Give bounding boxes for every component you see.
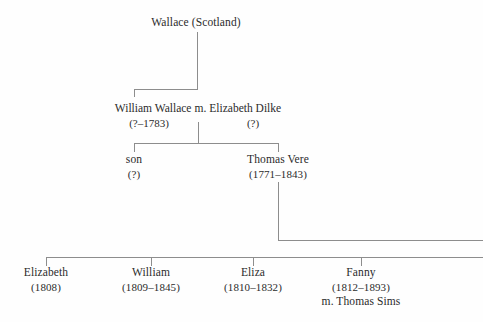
connector-gen2-stem — [198, 122, 199, 144]
node-name: Eliza — [224, 265, 282, 280]
node-name: son — [126, 152, 142, 167]
node-william-junior: William (1809–1845) — [122, 265, 180, 294]
node-dates: (1808) — [24, 280, 68, 294]
connector-gen3-stem-thomas-vere — [278, 182, 279, 241]
node-name: Fanny — [322, 265, 401, 280]
node-elizabeth: Elizabeth (1808) — [24, 265, 68, 294]
connector-gen3-drop-son — [134, 143, 135, 152]
node-dates: (1809–1845) — [122, 280, 180, 294]
node-name: William — [122, 265, 180, 280]
node-dates: (?) — [126, 167, 142, 181]
connector-gen1-stem — [197, 32, 198, 90]
node-spouse-note: m. Thomas Sims — [322, 294, 401, 309]
connector-gen4-sibling-bar — [46, 257, 483, 258]
node-name: Wallace (Scotland) — [151, 15, 240, 30]
node-dates: (1810–1832) — [224, 280, 282, 294]
connector-gen3-to-gen4-offpage-bar — [278, 240, 483, 241]
marriage-label: m. — [191, 102, 209, 114]
node-dates-wife: (?) — [211, 117, 295, 129]
node-dates: (1812–1893) — [322, 280, 401, 294]
connector-gen2-drop-william — [134, 89, 135, 97]
node-name-wife: Elizabeth Dilke — [209, 102, 281, 114]
node-dates: (1771–1843) — [247, 167, 309, 181]
connector-gen3-sibling-bar — [134, 143, 279, 144]
node-son: son (?) — [126, 152, 142, 181]
connector-gen1-to-gen2-bar — [134, 89, 198, 90]
connector-gen3-drop-thomas-vere — [278, 143, 279, 152]
node-name-husband: William Wallace — [115, 102, 192, 114]
node-name: Thomas Vere — [247, 152, 309, 167]
node-wallace-scotland: Wallace (Scotland) — [151, 15, 240, 30]
node-thomas-vere: Thomas Vere (1771–1843) — [247, 152, 309, 181]
node-eliza: Eliza (1810–1832) — [224, 265, 282, 294]
family-tree-diagram: Wallace (Scotland) William Wallacem.Eliz… — [0, 0, 483, 322]
node-fanny: Fanny (1812–1893) m. Thomas Sims — [322, 265, 401, 309]
node-dates-husband: (?–1783) — [101, 117, 197, 129]
node-name: Elizabeth — [24, 265, 68, 280]
